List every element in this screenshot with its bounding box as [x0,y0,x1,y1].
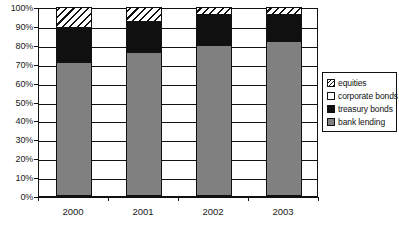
bar-column-2001 [126,7,162,196]
y-axis-tick-label: 20% [16,154,33,164]
legend-swatch-corporate-bonds [327,92,335,100]
x-axis-tick-mark [178,197,179,201]
y-axis-tick-label: 80% [16,41,33,51]
bar-column-2000 [56,7,92,196]
bar-segment-bank-lending [196,45,232,196]
chart-legend: equities corporate bonds treasury bonds … [322,72,397,132]
y-axis-tick-label: 70% [16,60,33,70]
bar-segment-bank-lending [266,41,302,196]
bar-segment-treasury-bonds [196,15,232,45]
x-axis: 2000200120022003 [38,197,318,229]
y-axis-tick-label: 60% [16,79,33,89]
x-axis-tick-mark [248,197,249,201]
bar-segment-equities [196,7,232,15]
y-axis: 0%10%20%30%40%50%60%70%80%90%100% [0,0,38,229]
legend-label-bank-lending: bank lending [338,117,385,127]
bar-column-2002 [196,7,232,196]
legend-label-corporate-bonds: corporate bonds [338,91,398,101]
legend-label-equities: equities [338,78,367,88]
legend-swatch-equities [327,79,335,87]
x-axis-tick-label: 2001 [132,206,153,217]
x-axis-tick-label: 2000 [62,206,83,217]
bar-segment-equities [266,7,302,15]
bar-segment-bank-lending [56,62,92,196]
legend-label-treasury-bonds: treasury bonds [338,104,393,114]
y-axis-tick-label: 30% [16,135,33,145]
bar-segment-treasury-bonds [266,15,302,41]
y-axis-tick-label: 50% [16,98,33,108]
legend-item-bank-lending: bank lending [327,115,393,128]
x-axis-tick-mark [318,197,319,201]
x-axis-tick-mark [38,197,39,201]
legend-swatch-treasury-bonds [327,105,335,113]
bar-segment-equities [56,7,92,28]
bar-column-2003 [266,7,302,196]
y-axis-tick-label: 10% [16,173,33,183]
y-axis-tick-label: 90% [16,22,33,32]
x-axis-tick-label: 2003 [272,206,293,217]
plot-area [38,8,318,197]
bar-segment-equities [126,7,162,22]
stacked-bar-chart: 0%10%20%30%40%50%60%70%80%90%100% 200020… [0,0,399,229]
legend-item-treasury-bonds: treasury bonds [327,102,393,115]
legend-swatch-bank-lending [327,118,335,126]
y-axis-tick-label: 40% [16,116,33,126]
x-axis-tick-mark [108,197,109,201]
bar-segment-bank-lending [126,52,162,196]
x-axis-tick-label: 2002 [202,206,223,217]
y-axis-tick-label: 100% [11,3,33,13]
bars-layer [39,9,317,196]
bar-segment-treasury-bonds [56,28,92,62]
legend-item-equities: equities [327,76,393,89]
legend-item-corporate-bonds: corporate bonds [327,89,393,102]
bar-segment-treasury-bonds [126,22,162,52]
y-axis-tick-label: 0% [20,192,33,202]
